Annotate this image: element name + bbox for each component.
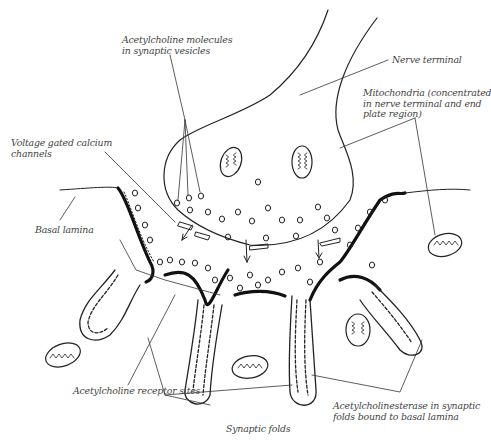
label-acetylcholinesterase: Acetylcholinesterase in synaptic folds b… <box>333 401 480 422</box>
mitochondrion <box>230 353 269 381</box>
mitochondrion <box>216 144 245 179</box>
label-basal-lamina: Basal lamina <box>35 225 94 236</box>
calcium-channel <box>195 232 210 240</box>
mitochondrion <box>346 314 370 346</box>
label-calcium-channels: Voltage gated calcium channels <box>11 138 112 159</box>
label-synaptic-folds: Synaptic folds <box>226 424 290 435</box>
mitochondria <box>42 144 464 380</box>
mitochondrion <box>42 339 83 372</box>
mitochondrion <box>426 230 465 260</box>
mitochondrion <box>292 146 312 178</box>
postsynaptic-membrane <box>60 187 470 304</box>
label-ach-receptor-sites: Acetylcholine receptor sites <box>73 386 200 397</box>
label-ach-vesicles: Acetylcholine molecules in synaptic vesi… <box>122 35 232 56</box>
label-nerve-terminal: Nerve terminal <box>392 55 462 66</box>
release-arrows <box>182 225 322 262</box>
label-mitochondria: Mitochondria (concentrated in nerve term… <box>363 88 491 120</box>
calcium-channel <box>320 238 340 246</box>
